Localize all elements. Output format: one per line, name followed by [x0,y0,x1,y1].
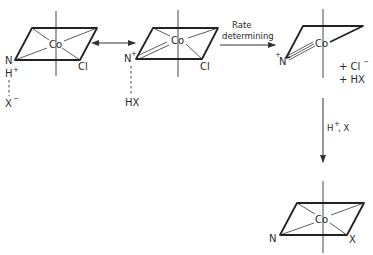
chloride-label: Cl [78,61,88,72]
hydrogen-label: H [5,68,13,79]
diagonal-bond [330,223,347,235]
arrow-label-line1: Rate [232,20,252,30]
nitrogen-label: N [5,55,12,66]
diagonal-bond [32,28,49,40]
hx-byproduct: + HX [339,74,365,85]
x-ligand-label: X [349,234,356,245]
anion-charge: − [13,95,19,103]
reagent-h: H [327,123,333,133]
complex-4: Co N X [269,181,364,253]
complex-3: + N Co + Cl − + HX [275,9,369,85]
hx-label: HX [125,97,140,108]
protonation-step: H + , X [323,98,349,162]
hydrogen-charge: + [13,66,19,74]
chloride-charge: − [363,58,369,66]
complex-2: Co N + HX Cl [124,10,218,108]
nitrogen-label: N [279,56,286,67]
chloride-label: Cl [200,61,210,72]
complex-1: Co N H + X − Cl [5,11,97,109]
n-co-bond [286,57,290,58]
cobalt-label: Co [171,35,184,46]
cobalt-label: Co [315,214,328,225]
chloride-byproduct: + Cl [339,61,360,72]
cobalt-label: Co [315,38,328,49]
diagonal-bond [297,203,315,214]
nitrogen-label: N [269,233,276,244]
reaction-mechanism-diagram: Co N H + X − Cl Co N + HX Cl Rate determ… [0,0,373,255]
rate-determining-step: Rate determining [220,20,275,45]
nitrogen-charge: + [131,50,137,58]
anion-label: X [5,98,12,109]
reagent-x: , X [338,123,349,133]
diagonal-bond [62,48,80,60]
diagonal-bond [153,28,170,36]
diagonal-bond [186,44,202,59]
arrow-label-line2: determining [222,31,274,41]
cobalt-label: Co [49,39,62,50]
